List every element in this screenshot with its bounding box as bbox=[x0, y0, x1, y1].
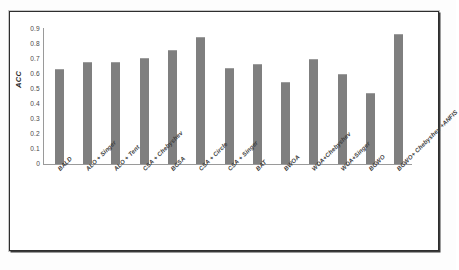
y-axis-tick-label: 0.5 bbox=[20, 86, 40, 93]
bar bbox=[111, 62, 120, 164]
bar bbox=[281, 82, 290, 165]
y-axis-tick-label: 0.3 bbox=[20, 116, 40, 123]
y-axis-tick-label: 0.2 bbox=[20, 131, 40, 138]
y-axis-tick-label: 0.7 bbox=[20, 56, 40, 63]
bar bbox=[309, 59, 318, 164]
bar bbox=[83, 62, 92, 164]
bar bbox=[338, 74, 347, 164]
bar bbox=[140, 58, 149, 164]
y-axis-tick-label: 0.6 bbox=[20, 71, 40, 78]
y-axis-title: ACC bbox=[14, 71, 23, 88]
bar bbox=[394, 34, 403, 164]
bar bbox=[225, 68, 234, 164]
x-axis-tick-labels: BALDALO + SingerALO + TentCSA + Chebyshe… bbox=[44, 167, 444, 267]
bar bbox=[366, 93, 375, 164]
y-axis-tick-label: 0.8 bbox=[20, 41, 40, 48]
y-axis-tick-label: 0.1 bbox=[20, 146, 40, 153]
y-axis-tick-labels: 0.90.80.70.60.50.40.30.20.10 bbox=[18, 0, 40, 270]
y-axis-tick-label: 0.9 bbox=[20, 26, 40, 33]
bar bbox=[196, 37, 205, 164]
y-axis-tick-label: 0.4 bbox=[20, 101, 40, 108]
y-axis-tick-label: 0 bbox=[20, 161, 40, 168]
bar bbox=[253, 64, 262, 164]
bar bbox=[55, 69, 64, 164]
